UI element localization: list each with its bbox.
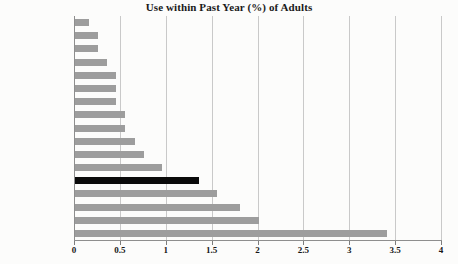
bar-united-kingdom <box>75 217 259 224</box>
bar-france <box>75 59 107 66</box>
bar-finland <box>75 125 125 132</box>
x-tick-label: 2.5 <box>288 245 318 255</box>
bar-portugal <box>75 85 116 92</box>
x-tick-label: 0.5 <box>105 245 135 255</box>
bar-greece <box>75 19 89 26</box>
bar-united-states <box>75 177 199 184</box>
gridline <box>258 16 259 240</box>
gridline <box>441 16 442 240</box>
bar-germany <box>75 151 144 158</box>
bar-spain <box>75 204 240 211</box>
bar-italy <box>75 32 98 39</box>
bar-austria <box>75 138 135 145</box>
x-tick-label: 1 <box>151 245 181 255</box>
bar-luxembourg <box>75 72 116 79</box>
bar-belgium <box>75 164 162 171</box>
bar-sweden <box>75 45 98 52</box>
x-tick-label: 3 <box>334 245 364 255</box>
x-tick-label: 1.5 <box>197 245 227 255</box>
bar-chart: Use within Past Year (%) of Adults 00.51… <box>0 0 458 264</box>
bar-ireland <box>75 230 387 237</box>
x-tick-label: 4 <box>426 245 456 255</box>
gridline <box>349 16 350 240</box>
bar-switzerland <box>75 98 116 105</box>
gridline <box>303 16 304 240</box>
x-tick-label: 2 <box>243 245 273 255</box>
bar-denmark <box>75 111 125 118</box>
gridline <box>395 16 396 240</box>
x-tick-label: 0 <box>59 245 89 255</box>
x-tick-label: 3.5 <box>380 245 410 255</box>
chart-title: Use within Past Year (%) of Adults <box>0 1 458 13</box>
bar-netherlands <box>75 190 217 197</box>
